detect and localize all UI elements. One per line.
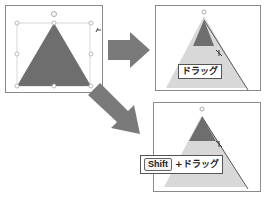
small-triangle — [189, 117, 216, 141]
triangle-drag — [156, 6, 262, 92]
panel-drag: ドラッグ — [155, 5, 261, 91]
arrow-diagonal-icon — [88, 83, 140, 134]
triangle-shift-drag — [154, 103, 262, 193]
panel-shift-drag — [153, 102, 261, 192]
shift-key: Shift — [144, 158, 172, 171]
drag-label: ドラッグ — [178, 64, 222, 79]
shift-drag-label: Shift+ドラッグ — [140, 155, 223, 174]
arrow-right-icon — [108, 32, 150, 68]
